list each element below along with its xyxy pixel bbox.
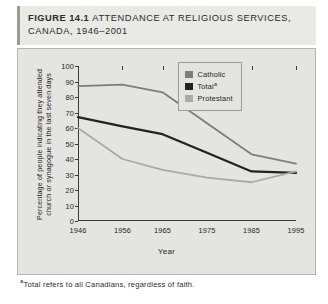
x-tick-label: 1985 bbox=[243, 226, 260, 235]
legend-total-footnote-marker: a bbox=[214, 81, 217, 87]
legend-swatch-total bbox=[185, 83, 193, 91]
figure-title-block: FIGURE 14.1 ATTENDANCE AT RELIGIOUS SERV… bbox=[17, 6, 316, 45]
legend-item-protestant: Protestant bbox=[185, 94, 233, 103]
y-tick-label: 20 bbox=[66, 186, 74, 195]
legend-label-protestant: Protestant bbox=[198, 94, 233, 103]
legend-item-total: Totala bbox=[185, 81, 233, 91]
x-tick-label: 1956 bbox=[114, 226, 131, 235]
figure-label-word: FIGURE bbox=[28, 13, 66, 23]
series-line-protestant bbox=[78, 128, 296, 182]
legend-item-catholic: Catholic bbox=[185, 70, 233, 79]
series-line-total bbox=[78, 117, 296, 173]
y-tick-label: 40 bbox=[66, 155, 74, 164]
y-tick-mark bbox=[75, 221, 79, 222]
chart-panel: Percentage of people indicating they att… bbox=[17, 48, 316, 275]
figure-number: 14.1 bbox=[69, 13, 89, 23]
x-tick-label: 1965 bbox=[154, 226, 171, 235]
y-tick-label: 80 bbox=[66, 93, 74, 102]
chart-legend: Catholic Totala Protestant bbox=[178, 62, 242, 111]
legend-label-total: Totala bbox=[198, 81, 218, 91]
x-tick-label: 1995 bbox=[288, 226, 305, 235]
y-tick-label: 50 bbox=[66, 139, 74, 148]
x-axis-label: Year bbox=[18, 247, 315, 256]
figure-footnote: aTotal refers to all Canadians, regardle… bbox=[20, 278, 316, 289]
legend-label-catholic: Catholic bbox=[198, 70, 226, 79]
y-tick-label: 60 bbox=[66, 124, 74, 133]
y-tick-label: 100 bbox=[61, 62, 74, 71]
y-tick-label: 10 bbox=[66, 201, 74, 210]
x-tick-label: 1946 bbox=[70, 226, 87, 235]
y-tick-label: 0 bbox=[70, 217, 74, 226]
figure-title-caption: ATTENDANCE AT RELIGIOUS SERVICES, CANADA… bbox=[28, 13, 291, 36]
y-tick-label: 90 bbox=[66, 77, 74, 86]
footnote-text: Total refers to all Canadians, regardles… bbox=[24, 280, 195, 289]
x-tick-mark bbox=[296, 66, 297, 70]
y-axis-label: Percentage of people indicating they att… bbox=[36, 59, 55, 229]
legend-swatch-protestant bbox=[185, 95, 193, 103]
figure-title-text: FIGURE 14.1 ATTENDANCE AT RELIGIOUS SERV… bbox=[28, 12, 308, 37]
y-tick-label: 30 bbox=[66, 170, 74, 179]
x-tick-label: 1975 bbox=[199, 226, 216, 235]
y-tick-label: 70 bbox=[66, 108, 74, 117]
legend-swatch-catholic bbox=[185, 71, 193, 79]
figure-page: FIGURE 14.1 ATTENDANCE AT RELIGIOUS SERV… bbox=[0, 0, 328, 304]
